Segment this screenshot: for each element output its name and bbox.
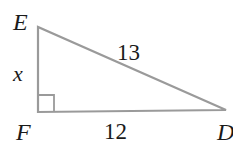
right-angle-marker [38, 95, 54, 112]
side-label-fd: 12 [104, 120, 127, 143]
vertex-label-f: F [16, 120, 31, 144]
side-label-ed: 13 [117, 41, 140, 64]
right-triangle-diagram: E F D x 13 12 [0, 0, 233, 153]
vertex-label-d: D [217, 120, 233, 144]
vertex-label-e: E [13, 10, 28, 34]
side-label-ef: x [13, 63, 23, 85]
